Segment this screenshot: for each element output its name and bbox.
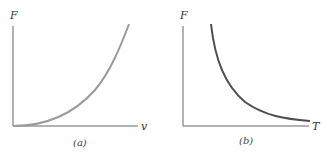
figure: F v (a) F T (b) [0,0,328,155]
caption-a: (a) [73,137,87,148]
x-label-a: v [141,120,148,133]
curve-a [13,24,129,126]
curve-b [211,24,310,121]
caption-b: (b) [239,135,253,146]
y-label-a: F [9,9,18,22]
y-label-b: F [179,9,188,22]
x-label-b: T [312,120,321,133]
panel-a: F v (a) [9,9,148,148]
panel-b: F T (b) [179,9,321,146]
